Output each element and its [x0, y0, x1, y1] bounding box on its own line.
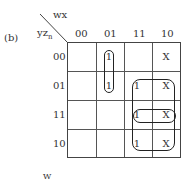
left-variable-text: yz: [37, 27, 48, 38]
row-header: 01: [53, 81, 66, 91]
row-header: 00: [53, 52, 66, 62]
karnaugh-map-figure: (b) wx yzn 00 01 11 10 00 01 11 10 1 X 1…: [0, 0, 191, 186]
top-variable-label: wx: [53, 10, 67, 20]
col-header: 11: [133, 29, 146, 39]
grouping-loop-col01: [104, 50, 114, 93]
col-header: 00: [75, 29, 88, 39]
kmap-cell: X: [152, 42, 180, 71]
row-header: 11: [53, 110, 66, 120]
output-label: W: [43, 172, 51, 182]
left-variable-subscript: n: [48, 33, 53, 41]
left-variable-label: yzn: [37, 28, 52, 42]
col-header: 01: [104, 29, 117, 39]
grouping-loop-row11: [133, 109, 176, 123]
col-header: 10: [161, 29, 174, 39]
row-header: 10: [53, 139, 66, 149]
